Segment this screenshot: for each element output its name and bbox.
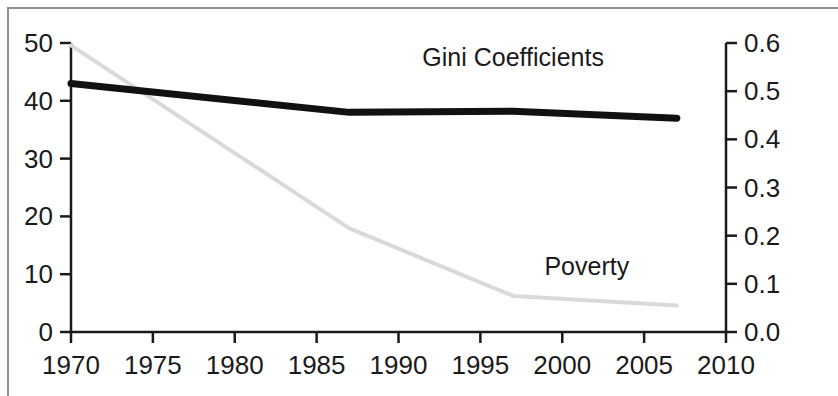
bottom-axis-ticks <box>71 332 726 343</box>
left-axis-tick-labels: 01020304050 <box>24 28 53 347</box>
right-tick-label: 0.2 <box>744 221 780 251</box>
bottom-tick-label: 2005 <box>615 350 673 380</box>
bottom-axis-tick-labels: 197019751980198519901995200020052010 <box>42 350 755 380</box>
left-tick-label: 10 <box>24 259 53 289</box>
left-tick-label: 50 <box>24 28 53 58</box>
chart-svg: 01020304050 0.00.10.20.30.40.50.6 197019… <box>0 0 838 396</box>
series-line-gini-coefficients <box>71 83 677 118</box>
bottom-tick-label: 1995 <box>451 350 509 380</box>
series-annotations: Gini CoefficientsPoverty <box>422 43 629 280</box>
left-tick-label: 0 <box>39 317 53 347</box>
right-axis-tick-labels: 0.00.10.20.30.40.50.6 <box>744 28 780 347</box>
bottom-tick-label: 1980 <box>206 350 264 380</box>
bottom-tick-label: 2010 <box>697 350 755 380</box>
right-tick-label: 0.6 <box>744 28 780 58</box>
left-tick-label: 30 <box>24 144 53 174</box>
right-tick-label: 0.3 <box>744 173 780 203</box>
left-tick-label: 40 <box>24 86 53 116</box>
right-tick-label: 0.4 <box>744 124 780 154</box>
chart-figure: 01020304050 0.00.10.20.30.40.50.6 197019… <box>0 0 838 396</box>
bottom-tick-label: 1985 <box>288 350 346 380</box>
bottom-tick-label: 2000 <box>533 350 591 380</box>
left-tick-label: 20 <box>24 201 53 231</box>
series-label-gini-coefficients: Gini Coefficients <box>422 43 604 71</box>
right-axis-ticks <box>726 43 737 332</box>
bottom-tick-label: 1990 <box>370 350 428 380</box>
right-tick-label: 0.0 <box>744 317 780 347</box>
right-tick-label: 0.5 <box>744 76 780 106</box>
series-label-poverty: Poverty <box>544 252 629 280</box>
right-tick-label: 0.1 <box>744 269 780 299</box>
bottom-tick-label: 1970 <box>42 350 100 380</box>
bottom-tick-label: 1975 <box>124 350 182 380</box>
axis-spines <box>71 43 726 332</box>
plot-area: 01020304050 0.00.10.20.30.40.50.6 197019… <box>0 0 838 396</box>
